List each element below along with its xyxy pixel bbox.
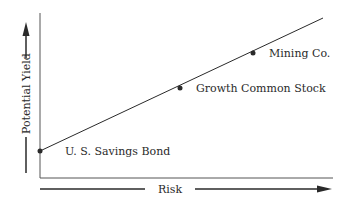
label-mining-co: Mining Co. <box>269 47 330 60</box>
label-growth-stock: Growth Common Stock <box>196 82 326 95</box>
label-savings-bond: U. S. Savings Bond <box>65 145 170 158</box>
x-axis-label: Risk <box>158 183 182 196</box>
point-savings-bond <box>38 149 43 154</box>
point-mining-co <box>251 51 256 56</box>
y-axis-label: Potential Yield <box>20 53 33 134</box>
point-growth-stock <box>178 86 183 91</box>
risk-yield-diagram: U. S. Savings Bond Growth Common Stock M… <box>0 0 349 205</box>
arrow-right-icon <box>317 186 332 193</box>
arrow-up-icon <box>23 22 30 36</box>
